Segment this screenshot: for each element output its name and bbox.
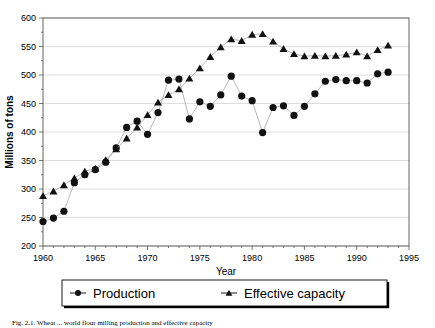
x-axis-ticks: 19601965197019751980198519901995 bbox=[33, 246, 419, 263]
data-point-circle bbox=[165, 77, 172, 84]
data-point-circle bbox=[186, 115, 193, 122]
data-point-circle bbox=[301, 103, 308, 110]
y-tick-label: 500 bbox=[21, 70, 36, 80]
y-tick-label: 450 bbox=[21, 99, 36, 109]
data-point-circle bbox=[196, 98, 203, 105]
chart-canvas: 19601965197019751980198519901995 2002503… bbox=[0, 0, 435, 328]
data-point-circle bbox=[280, 102, 287, 109]
data-point-circle bbox=[217, 91, 224, 98]
series-line bbox=[43, 72, 388, 221]
data-point-circle bbox=[374, 70, 381, 77]
series-production bbox=[39, 69, 391, 226]
x-tick-label: 1975 bbox=[190, 253, 210, 263]
data-point-circle bbox=[60, 208, 67, 215]
data-point-circle bbox=[175, 75, 182, 82]
axis-labels-group: YearMillions of tons bbox=[4, 95, 237, 277]
legend-label: Production bbox=[93, 286, 155, 301]
data-point-circle bbox=[207, 103, 214, 110]
data-point-circle bbox=[343, 77, 350, 84]
y-tick-label: 400 bbox=[21, 127, 36, 137]
data-point-circle bbox=[50, 214, 57, 221]
chart-legend: ProductionEffective capacity bbox=[62, 280, 389, 308]
data-point-circle bbox=[353, 77, 360, 84]
data-point-triangle bbox=[311, 52, 319, 59]
series-effective-capacity bbox=[39, 30, 392, 199]
data-point-triangle bbox=[353, 49, 361, 56]
x-tick-label: 1970 bbox=[138, 253, 158, 263]
y-tick-label: 250 bbox=[21, 213, 36, 223]
data-point-triangle bbox=[290, 50, 298, 57]
data-point-triangle bbox=[154, 99, 162, 106]
data-point-circle bbox=[384, 69, 391, 76]
data-point-circle bbox=[322, 78, 329, 85]
data-point-triangle bbox=[227, 35, 235, 42]
x-tick-label: 1965 bbox=[85, 253, 105, 263]
figure-container: 19601965197019751980198519901995 2002503… bbox=[0, 0, 435, 328]
data-point-circle bbox=[364, 79, 371, 86]
data-point-circle bbox=[39, 218, 46, 225]
data-point-circle bbox=[238, 92, 245, 99]
data-point-triangle bbox=[269, 38, 277, 45]
figure-caption: Fig. 2.1. Wheat ... world flour milling … bbox=[12, 319, 213, 327]
x-axis-title: Year bbox=[216, 266, 237, 277]
legend-shadow-right bbox=[387, 282, 389, 308]
data-point-triangle bbox=[259, 30, 267, 37]
data-point-circle bbox=[249, 97, 256, 104]
data-point-triangle bbox=[280, 45, 288, 52]
data-point-triangle bbox=[39, 192, 47, 199]
data-point-circle bbox=[123, 124, 130, 131]
data-point-triangle bbox=[164, 91, 172, 98]
data-point-triangle bbox=[384, 42, 392, 49]
x-tick-label: 1960 bbox=[33, 253, 53, 263]
data-point-triangle bbox=[363, 53, 371, 60]
y-tick-label: 350 bbox=[21, 156, 36, 166]
data-point-triangle bbox=[81, 168, 89, 175]
data-point-circle bbox=[228, 73, 235, 80]
data-point-circle bbox=[332, 76, 339, 83]
data-point-triangle bbox=[49, 188, 57, 195]
data-point-circle bbox=[134, 118, 141, 125]
caption-label: Fig. 2.1. Wheat ... world flour milling … bbox=[12, 319, 213, 327]
x-tick-label: 1990 bbox=[347, 253, 367, 263]
y-axis-title: Millions of tons bbox=[4, 95, 15, 169]
data-series-group bbox=[39, 30, 392, 225]
y-tick-label: 300 bbox=[21, 184, 36, 194]
data-point-triangle bbox=[144, 111, 152, 118]
x-tick-label: 1985 bbox=[294, 253, 314, 263]
legend-shadow-bottom bbox=[64, 306, 389, 308]
data-point-circle bbox=[269, 104, 276, 111]
x-tick-label: 1995 bbox=[399, 253, 419, 263]
gridlines-group bbox=[43, 18, 409, 246]
data-point-circle bbox=[259, 129, 266, 136]
data-point-circle bbox=[154, 109, 161, 116]
y-tick-label: 200 bbox=[21, 241, 36, 251]
legend-label: Effective capacity bbox=[244, 286, 345, 301]
data-point-triangle bbox=[70, 174, 78, 181]
data-point-circle bbox=[290, 112, 297, 119]
data-point-triangle bbox=[374, 46, 382, 53]
x-tick-label: 1980 bbox=[242, 253, 262, 263]
y-tick-label: 600 bbox=[21, 13, 36, 23]
data-point-circle bbox=[311, 90, 318, 97]
y-axis-ticks: 200250300350400450500550600 bbox=[21, 13, 43, 251]
data-point-triangle bbox=[60, 181, 68, 188]
legend-marker-circle bbox=[75, 290, 81, 296]
data-point-circle bbox=[144, 131, 151, 138]
y-tick-label: 550 bbox=[21, 42, 36, 52]
